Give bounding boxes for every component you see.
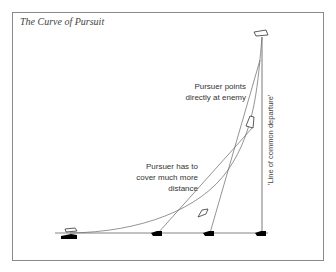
label-line: cover much more: [110, 172, 198, 183]
boat-black-icon: [255, 231, 266, 236]
pursuer-boat-icon: [246, 116, 254, 128]
label-line: distance: [110, 183, 198, 194]
label-line: directly at enemy: [150, 92, 246, 103]
start-boat-icon: [65, 228, 77, 232]
boat-black-icon: [61, 234, 77, 239]
boat-black-icon: [151, 231, 162, 236]
label-departure-line: 'Line of common departure': [266, 95, 275, 185]
pursuit-diagram: [0, 0, 336, 272]
pursuer-boat-icon: [198, 209, 208, 217]
enemy-boat-icon: [254, 30, 268, 36]
label-line: Pursuer points: [150, 81, 246, 92]
label-pursuer-distance: Pursuer has to cover much more distance: [110, 161, 198, 194]
label-pursuer-points: Pursuer points directly at enemy: [150, 81, 246, 103]
boat-black-icon: [203, 231, 214, 236]
label-line: Pursuer has to: [110, 161, 198, 172]
pursuit-curve: [70, 37, 262, 233]
